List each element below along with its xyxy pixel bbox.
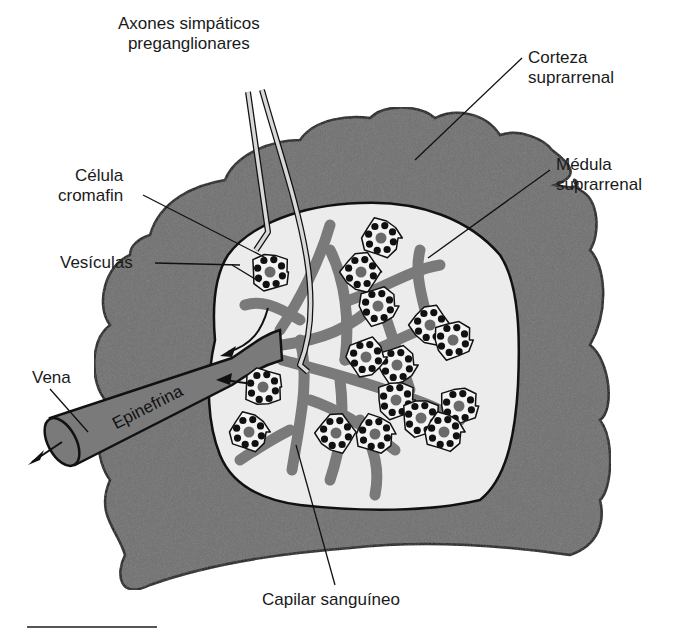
secretory-vesicle (359, 366, 366, 373)
secretory-vesicle (438, 343, 445, 350)
secretory-vesicle (429, 435, 436, 442)
cell-nucleus (454, 401, 465, 412)
label-vesicles: Vesículas (60, 253, 133, 273)
cell-nucleus (331, 428, 342, 439)
secretory-vesicle (467, 396, 474, 403)
secretory-vesicle (390, 238, 397, 245)
secretory-vesicle (336, 417, 343, 424)
secretory-vesicle (263, 281, 270, 288)
secretory-vesicle (363, 309, 370, 316)
secretory-vesicle (389, 409, 396, 416)
secretory-vesicle (443, 399, 450, 406)
secretory-vesicle (339, 441, 346, 448)
secretory-vesicle (421, 402, 428, 409)
secretory-vesicle (366, 341, 373, 348)
secretory-vesicle (453, 432, 460, 439)
secretory-vesicle (345, 265, 352, 272)
secretory-vesicle (260, 257, 267, 264)
secretory-vesicle (438, 315, 445, 322)
secretory-vesicle (374, 347, 381, 354)
secretory-vesicle (329, 442, 336, 449)
secretory-vesicle (370, 272, 377, 279)
secretory-vesicle (386, 385, 393, 392)
secretory-vesicle (380, 393, 387, 400)
vein-flow-arrowhead (28, 450, 44, 465)
cell-nucleus (258, 382, 269, 393)
secretory-vesicle (461, 330, 468, 337)
cell-nucleus (439, 427, 450, 438)
secretory-vesicle (362, 299, 369, 306)
secretory-vesicle (371, 223, 378, 230)
secretory-vesicle (368, 443, 375, 450)
label-adrenal-medulla: Médula suprarrenal (556, 155, 642, 195)
secretory-vesicle (405, 411, 412, 418)
secretory-vesicle (404, 390, 411, 397)
secretory-vesicle (423, 334, 430, 341)
secretory-vesicle (374, 247, 381, 254)
secretory-vesicle (420, 310, 427, 317)
secretory-vesicle (233, 425, 240, 432)
label-medulla-line1: Médula (556, 155, 642, 175)
label-chromaffin-cell: Célula cromafin (58, 166, 123, 206)
label-axons-line2: preganglionares (118, 34, 260, 54)
secretory-vesicle (239, 417, 246, 424)
label-blood-capillary: Capilar sanguíneo (262, 590, 400, 610)
secretory-vesicle (247, 380, 254, 387)
chromaffin-cell (246, 368, 282, 404)
secretory-vesicle (430, 309, 437, 316)
secretory-vesicle (387, 350, 394, 357)
secretory-vesicle (359, 427, 366, 434)
secretory-vesicle (375, 418, 382, 425)
cell-nucleus (416, 413, 427, 424)
secretory-vesicle (279, 272, 286, 279)
secretory-vesicle (271, 377, 278, 384)
cell-nucleus (376, 233, 387, 244)
secretory-vesicle (258, 432, 265, 439)
secretory-vesicle (405, 355, 412, 362)
secretory-vesicle (462, 340, 469, 347)
secretory-vesicle (381, 314, 388, 321)
secretory-vesicle (400, 373, 407, 380)
secretory-vesicle (248, 390, 255, 397)
cell-nucleus (356, 267, 367, 278)
secretory-vesicle (326, 418, 333, 425)
secretory-vesicle (351, 257, 358, 264)
secretory-vesicle (273, 280, 280, 287)
cell-nucleus (391, 395, 402, 406)
secretory-vesicle (256, 396, 263, 403)
label-cortex-line1: Corteza (528, 48, 614, 68)
secretory-vesicle (365, 419, 372, 426)
secretory-vesicle (396, 384, 403, 391)
secretory-vesicle (414, 427, 421, 434)
secretory-vesicle (252, 440, 259, 447)
cell-nucleus (392, 360, 403, 371)
secretory-vesicle (278, 262, 285, 269)
secretory-vesicle (462, 414, 469, 421)
secretory-vesicle (428, 425, 435, 432)
secretory-vesicle (345, 433, 352, 440)
secretory-vesicle (397, 349, 404, 356)
label-cortex-line2: suprarrenal (528, 68, 614, 88)
secretory-vesicle (406, 421, 413, 428)
secretory-vesicle (414, 318, 421, 325)
cell-nucleus (370, 429, 381, 440)
secretory-vesicle (443, 325, 450, 332)
secretory-vesicle (249, 416, 256, 423)
secretory-vesicle (453, 324, 460, 331)
secretory-vesicle (381, 403, 388, 410)
secretory-vesicle (452, 422, 459, 429)
secretory-vesicle (447, 440, 454, 447)
secretory-vesicle (375, 357, 382, 364)
secretory-vesicle (360, 437, 367, 444)
cell-nucleus (244, 427, 255, 438)
secretory-vesicle (234, 435, 241, 442)
secretory-vesicle (371, 315, 378, 322)
secretory-vesicle (272, 387, 279, 394)
capillary-branch (418, 250, 425, 310)
secretory-vesicle (378, 442, 385, 449)
label-vein: Vena (32, 368, 71, 388)
secretory-vesicle (411, 403, 418, 410)
secretory-vesicle (350, 350, 357, 357)
secretory-vesicle (351, 360, 358, 367)
secretory-vesicle (320, 426, 327, 433)
